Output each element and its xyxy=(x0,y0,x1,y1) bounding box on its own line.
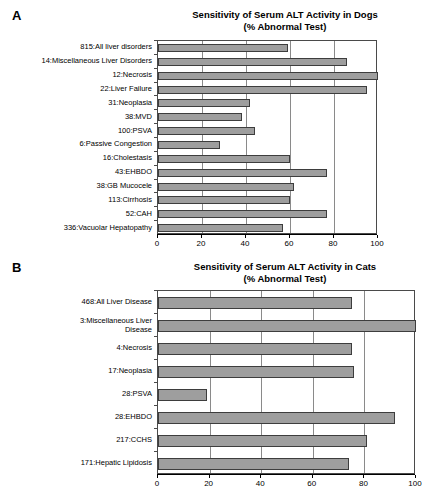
bar-row xyxy=(158,320,414,332)
x-axis-tick xyxy=(245,235,246,238)
panel-a-title-line1: Sensitivity of Serum ALT Activity in Dog… xyxy=(150,9,420,21)
x-axis-tick-label: 100 xyxy=(365,239,389,248)
category-label: 43:EHBDO xyxy=(0,167,152,176)
category-label: 16:Cholestasis xyxy=(0,153,152,162)
x-axis-tick xyxy=(260,475,261,478)
bar xyxy=(158,435,367,447)
category-label: 336:Vacuolar Hepatopathy xyxy=(0,223,152,232)
bar xyxy=(158,183,294,191)
bar xyxy=(158,113,242,121)
bar xyxy=(158,127,255,135)
bar-row xyxy=(158,196,376,204)
bar xyxy=(158,224,283,232)
bar xyxy=(158,196,290,204)
category-label: 38:MVD xyxy=(0,112,152,121)
x-axis-tick-label: 40 xyxy=(248,479,272,488)
bar xyxy=(158,44,288,52)
panel-a: A Sensitivity of Serum ALT Activity in D… xyxy=(0,0,429,252)
bar-row xyxy=(158,412,414,424)
x-axis-tick xyxy=(289,235,290,238)
bar-row xyxy=(158,44,376,52)
x-axis-tick-label: 20 xyxy=(197,479,221,488)
bar xyxy=(158,169,327,177)
category-label: 4:Necrosis xyxy=(0,343,152,352)
bar xyxy=(158,155,290,163)
category-label: 171:Hepatic Lipidosis xyxy=(0,458,152,467)
bar-row xyxy=(158,435,414,447)
bar-row xyxy=(158,366,414,378)
bar xyxy=(158,412,395,424)
x-axis-tick xyxy=(377,235,378,238)
x-axis-tick xyxy=(363,475,364,478)
bar-row xyxy=(158,127,376,135)
category-label: 100:PSVA xyxy=(0,126,152,135)
category-label: 113:Cirrhosis xyxy=(0,195,152,204)
x-axis-tick-label: 0 xyxy=(145,239,169,248)
panel-b-letter: B xyxy=(12,260,21,275)
category-label: 6:Passive Congestion xyxy=(0,139,152,148)
bar-row xyxy=(158,297,414,309)
x-axis-tick-label: 80 xyxy=(351,479,375,488)
bar-row xyxy=(158,343,414,355)
bar xyxy=(158,320,416,332)
x-axis-tick-label: 60 xyxy=(277,239,301,248)
category-label: 28:PSVA xyxy=(0,389,152,398)
bar-row xyxy=(158,458,414,470)
category-label: 52:CAH xyxy=(0,209,152,218)
x-axis-tick-label: 40 xyxy=(233,239,257,248)
x-axis-tick xyxy=(415,475,416,478)
bar-row xyxy=(158,183,376,191)
panel-b-plot-area xyxy=(157,290,415,474)
bar xyxy=(158,86,367,94)
category-label: 17:Neoplasia xyxy=(0,366,152,375)
x-axis-tick-label: 60 xyxy=(300,479,324,488)
x-axis-tick xyxy=(201,235,202,238)
bar xyxy=(158,458,349,470)
x-axis-tick xyxy=(312,475,313,478)
bar-row xyxy=(158,224,376,232)
category-label: 3:Miscellaneous Liver Disease xyxy=(0,316,152,334)
x-axis-line xyxy=(157,474,415,475)
bar xyxy=(158,366,354,378)
x-axis-tick-label: 20 xyxy=(189,239,213,248)
bar-row xyxy=(158,58,376,66)
bar-row xyxy=(158,155,376,163)
x-axis-tick xyxy=(209,475,210,478)
bar xyxy=(158,99,250,107)
category-label: 468:All Liver Disease xyxy=(0,297,152,306)
bar xyxy=(158,72,378,80)
category-label: 38:GB Mucocele xyxy=(0,181,152,190)
bar xyxy=(158,297,352,309)
x-axis-tick xyxy=(333,235,334,238)
category-label: 815:All liver disorders xyxy=(0,42,152,51)
bar xyxy=(158,343,352,355)
bar xyxy=(158,141,220,149)
category-label: 31:Neoplasia xyxy=(0,98,152,107)
x-axis-line xyxy=(157,234,377,235)
x-axis-tick-label: 80 xyxy=(321,239,345,248)
category-label: 22:Liver Failure xyxy=(0,84,152,93)
bar-row xyxy=(158,389,414,401)
bar xyxy=(158,210,327,218)
bar-row xyxy=(158,99,376,107)
panel-b-title-line2: (% Abnormal Test) xyxy=(150,273,420,285)
category-label: 28:EHBDO xyxy=(0,412,152,421)
panel-a-title-line2: (% Abnormal Test) xyxy=(150,21,420,33)
bar-row xyxy=(158,210,376,218)
x-axis-tick-label: 0 xyxy=(145,479,169,488)
x-axis-tick-label: 100 xyxy=(403,479,427,488)
category-label: 217:CCHS xyxy=(0,435,152,444)
panel-b-title-line1: Sensitivity of Serum ALT Activity in Cat… xyxy=(150,261,420,273)
x-axis-tick xyxy=(157,475,158,478)
bar xyxy=(158,389,207,401)
bar-row xyxy=(158,113,376,121)
category-label: 14:Miscellaneous Liver Disorders xyxy=(0,56,152,65)
x-axis-tick xyxy=(157,235,158,238)
category-label: 12:Necrosis xyxy=(0,70,152,79)
bar-row xyxy=(158,141,376,149)
panel-a-letter: A xyxy=(12,8,21,23)
panel-b: B Sensitivity of Serum ALT Activity in C… xyxy=(0,252,429,504)
bar-row xyxy=(158,169,376,177)
panel-a-plot-area xyxy=(157,40,377,234)
bar xyxy=(158,58,347,66)
